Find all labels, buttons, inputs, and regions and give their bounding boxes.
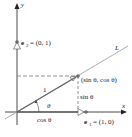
hypotenuse-label: 1 <box>43 86 47 94</box>
line-l-label: L <box>114 44 119 52</box>
e2-label-sub: 2 <box>26 43 29 48</box>
y-axis-label: y <box>20 1 25 9</box>
e1-label-sub: 1 <box>89 122 92 127</box>
e2-label-value: = (0, 1) <box>30 39 52 47</box>
diagram-svg: y x L e 2 = (0, 1) e 1 = (1, 0) (sin θ, … <box>0 0 132 137</box>
sin-cos-point <box>76 74 80 78</box>
e2-point <box>15 40 19 44</box>
sin-label: sin θ <box>80 93 94 101</box>
y-axis-arrow-icon <box>15 3 20 9</box>
point-label: (sin θ, cos θ) <box>81 76 118 84</box>
cos-label: cos θ <box>37 116 52 124</box>
e1-label-value: = (1, 0) <box>93 118 115 126</box>
angle-label: θ <box>47 102 51 110</box>
x-axis-arrow-icon <box>121 110 127 115</box>
e1-point <box>84 110 88 114</box>
cos-vector-arrowhead-icon <box>78 109 84 116</box>
e2-label-name: e <box>21 39 24 47</box>
e1-label-name: e <box>84 118 87 126</box>
reflection-diagram: y x L e 2 = (0, 1) e 1 = (1, 0) (sin θ, … <box>0 0 132 137</box>
x-axis-label: x <box>121 102 126 110</box>
